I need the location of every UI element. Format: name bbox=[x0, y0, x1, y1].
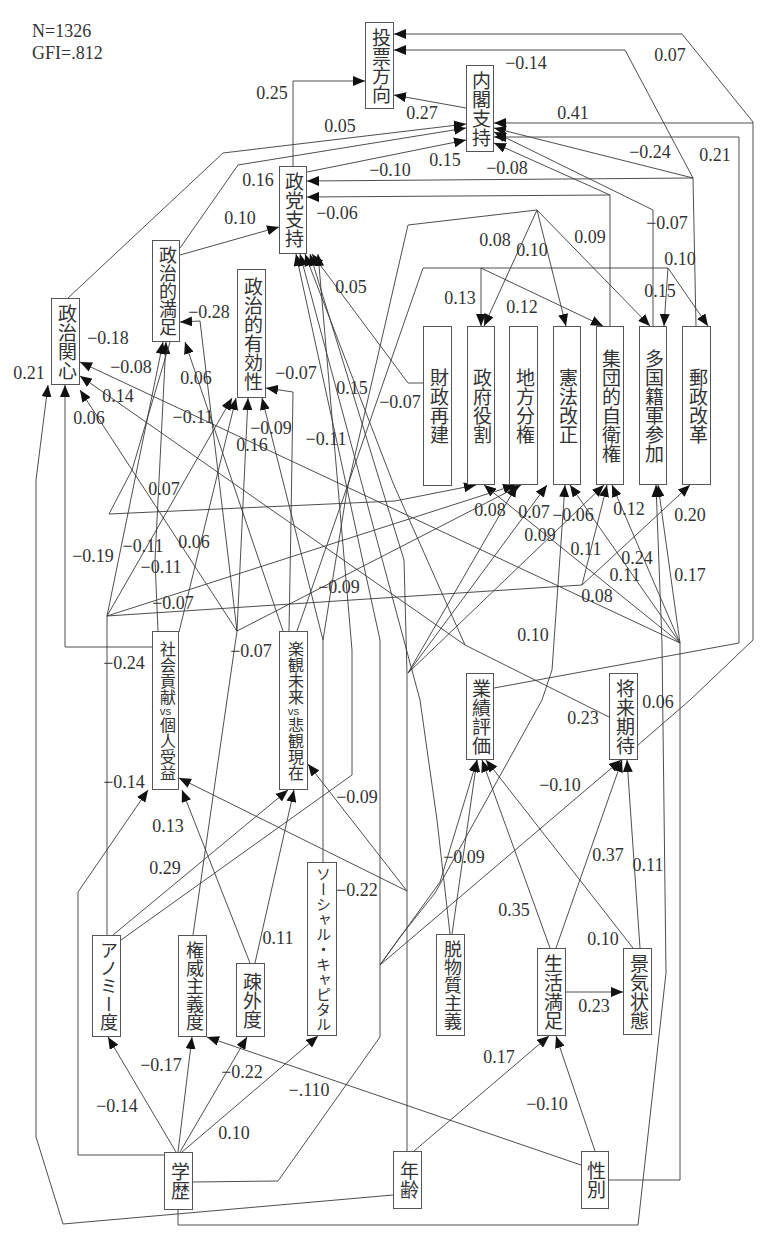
path-coefficient: 0.37 bbox=[592, 846, 624, 864]
path-coefficient: 0.10 bbox=[664, 250, 696, 268]
path-coefficient: 0.10 bbox=[218, 1124, 250, 1142]
path-coefficient: −0.07 bbox=[275, 364, 317, 382]
path-coefficient: 0.16 bbox=[236, 436, 268, 454]
path-coefficient: 0.15 bbox=[336, 379, 368, 397]
path-coefficient: 0.12 bbox=[613, 500, 645, 518]
gfi-value: GFI=.812 bbox=[32, 44, 103, 62]
path-coefficient: 0.23 bbox=[567, 709, 599, 727]
path-coefficient: −0.09 bbox=[443, 848, 485, 866]
path-coefficient: −0.08 bbox=[486, 159, 528, 177]
path-coefficient: 0.06 bbox=[178, 533, 210, 551]
sample-size: N=1326 bbox=[32, 22, 91, 40]
path-coefficient: 0.06 bbox=[73, 409, 105, 427]
path-coefficient: −0.14 bbox=[103, 773, 145, 791]
path-coefficient: 0.17 bbox=[674, 566, 706, 584]
path-coefficient: 0.23 bbox=[578, 997, 610, 1015]
path-coefficient: −0.24 bbox=[103, 654, 145, 672]
path-coefficient: 0.16 bbox=[242, 171, 274, 189]
path-coefficient: 0.11 bbox=[633, 856, 664, 874]
path-coefficient: −0.09 bbox=[318, 578, 360, 596]
path-coefficient: 0.12 bbox=[506, 298, 538, 316]
path-coefficient: −0.09 bbox=[336, 788, 378, 806]
path-coefficient: 0.27 bbox=[406, 104, 438, 122]
path-coefficient: −0.10 bbox=[369, 161, 411, 179]
path-coefficient: 0.08 bbox=[581, 587, 613, 605]
path-diagram: 投票方向内閣支持政党支持政治的満足政治的有効性政治関心財政再建政府役割地方分権憲… bbox=[0, 0, 770, 1236]
path-coefficient: −0.07 bbox=[646, 214, 688, 232]
path-coefficient: −0.10 bbox=[539, 776, 581, 794]
path-coefficient: 0.11 bbox=[610, 566, 641, 584]
path-coefficient: 0.13 bbox=[444, 289, 476, 307]
path-coefficient: −0.11 bbox=[123, 537, 164, 555]
path-coefficient: −0.07 bbox=[152, 594, 194, 612]
path-coefficient: 0.21 bbox=[13, 364, 45, 382]
path-coefficient: 0.10 bbox=[517, 626, 549, 644]
path-coefficient: −0.28 bbox=[188, 303, 230, 321]
path-coefficient: 0.29 bbox=[149, 859, 181, 877]
path-coefficient: 0.08 bbox=[474, 501, 506, 519]
path-coefficient: 0.21 bbox=[699, 146, 731, 164]
path-coefficient: −0.10 bbox=[526, 1095, 568, 1113]
path-coefficient: 0.06 bbox=[180, 369, 212, 387]
path-coefficient: −0.22 bbox=[336, 881, 378, 899]
path-coefficient: 0.05 bbox=[324, 117, 356, 135]
path-coefficient: 0.35 bbox=[498, 901, 530, 919]
path-coefficient: −0.11 bbox=[141, 558, 182, 576]
path-coefficient: 0.07 bbox=[654, 46, 686, 64]
path-coefficient: 0.08 bbox=[479, 231, 511, 249]
path-coefficient: 0.10 bbox=[516, 241, 548, 259]
path-coefficient: 0.06 bbox=[642, 693, 674, 711]
path-coefficient: −0.17 bbox=[140, 1056, 182, 1074]
path-coefficient: 0.09 bbox=[524, 526, 556, 544]
path-coefficient: 0.15 bbox=[429, 151, 461, 169]
coefficient-layer: 0.250.050.27−0.140.070.410.16−0.100.15−0… bbox=[0, 0, 770, 1236]
path-coefficient: 0.15 bbox=[644, 282, 676, 300]
path-coefficient: 0.17 bbox=[483, 1048, 515, 1066]
path-coefficient: −0.19 bbox=[72, 547, 114, 565]
path-coefficient: −0.06 bbox=[316, 204, 358, 222]
path-coefficient: 0.11 bbox=[263, 929, 294, 947]
path-coefficient: −0.22 bbox=[221, 1063, 263, 1081]
path-coefficient: −0.24 bbox=[629, 143, 671, 161]
path-coefficient: −0.14 bbox=[505, 54, 547, 72]
path-coefficient: −0.14 bbox=[96, 1097, 138, 1115]
path-coefficient: 0.41 bbox=[557, 104, 589, 122]
path-coefficient: 0.05 bbox=[335, 278, 367, 296]
path-coefficient: −0.08 bbox=[110, 358, 152, 376]
path-coefficient: −.110 bbox=[289, 1081, 330, 1099]
path-coefficient: 0.07 bbox=[518, 503, 550, 521]
path-coefficient: 0.11 bbox=[571, 540, 602, 558]
path-coefficient: 0.10 bbox=[587, 930, 619, 948]
path-coefficient: −0.11 bbox=[173, 408, 214, 426]
path-coefficient: 0.20 bbox=[674, 506, 706, 524]
path-coefficient: 0.25 bbox=[256, 84, 288, 102]
path-coefficient: −0.06 bbox=[552, 506, 594, 524]
path-coefficient: −0.11 bbox=[306, 430, 347, 448]
path-coefficient: 0.07 bbox=[148, 480, 180, 498]
path-coefficient: −0.07 bbox=[379, 393, 421, 411]
path-coefficient: 0.09 bbox=[574, 228, 606, 246]
path-coefficient: −0.18 bbox=[87, 329, 129, 347]
path-coefficient: 0.14 bbox=[102, 387, 134, 405]
path-coefficient: 0.10 bbox=[224, 209, 256, 227]
path-coefficient: 0.13 bbox=[152, 817, 184, 835]
path-coefficient: −0.07 bbox=[230, 642, 272, 660]
